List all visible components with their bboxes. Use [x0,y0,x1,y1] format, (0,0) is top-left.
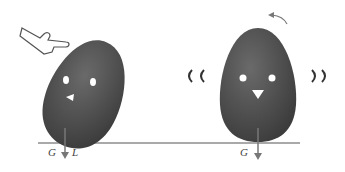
left-label-g: G [48,146,56,158]
rotation-arrow-icon [268,12,287,24]
left-egg-eye [63,76,69,84]
pointing-hand-icon [20,28,69,54]
right-egg [220,28,296,142]
right-egg-eye [269,75,276,82]
right-egg-eye [240,75,247,82]
left-arrow-head [61,152,69,159]
right-label-g: G [240,146,248,158]
left-label-l: L [72,146,78,158]
right-arrow-head [254,153,262,160]
left-egg-eye [90,78,96,86]
